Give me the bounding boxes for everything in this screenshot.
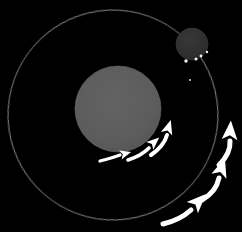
secondary-body [176, 28, 208, 60]
speck-4-icon [206, 51, 208, 53]
speck-1-icon [184, 59, 187, 62]
primary-body [75, 66, 161, 152]
speck-2-icon [195, 58, 198, 61]
orbit-diagram-svg [0, 0, 242, 232]
speck-5-icon [189, 79, 191, 81]
speck-3-icon [200, 55, 203, 58]
orbit-diagram-canvas: Barycentric orbit diagram A large gray s… [0, 0, 242, 232]
